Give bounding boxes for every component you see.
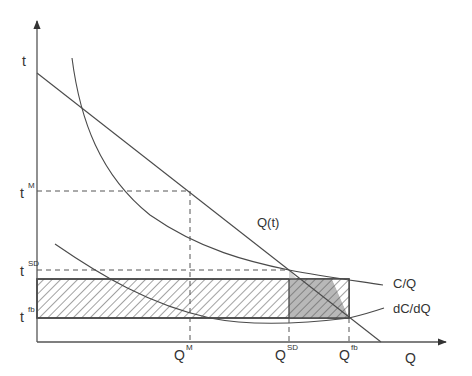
svg-text:SD: SD <box>287 343 298 352</box>
label-qt: Q(t) <box>257 215 279 230</box>
svg-text:M: M <box>28 181 35 190</box>
average-cost-curve <box>72 58 383 285</box>
svg-text:Q: Q <box>339 347 350 363</box>
x-axis-label: Q <box>405 350 416 366</box>
svg-text:M: M <box>186 343 193 352</box>
svg-text:fb: fb <box>28 305 35 314</box>
svg-text:t: t <box>20 185 24 201</box>
label-cq: C/Q <box>393 276 416 291</box>
svg-text:Q: Q <box>174 347 185 363</box>
x-tick-q-m: Q M <box>174 343 193 363</box>
svg-text:SD: SD <box>28 259 39 268</box>
cost-curve-diagram: t Q t M t SD t fb Q M Q SD Q fb Q(t) C/Q… <box>0 0 472 376</box>
x-tick-q-fb: Q fb <box>339 343 358 363</box>
y-tick-t-fb: t fb <box>20 305 35 325</box>
svg-text:fb: fb <box>351 343 358 352</box>
y-axis-label: t <box>22 53 26 69</box>
y-tick-t-m: t M <box>20 181 35 201</box>
label-dcdq: dC/dQ <box>393 301 431 316</box>
svg-text:t: t <box>20 309 24 325</box>
svg-text:Q: Q <box>275 347 286 363</box>
svg-text:t: t <box>20 263 24 279</box>
x-tick-q-sd: Q SD <box>275 343 298 363</box>
